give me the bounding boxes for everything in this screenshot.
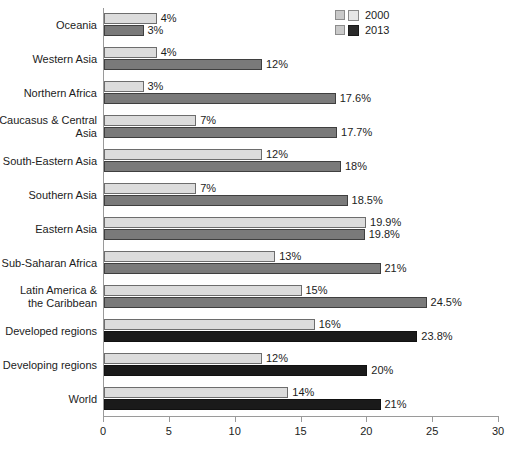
x-tick-mark <box>235 416 236 422</box>
category-label: Northern Africa <box>0 87 97 100</box>
plot-area: 051015202530 Oceania4%3%Western Asia4%12… <box>103 8 498 416</box>
bar-value-label-2000: 4% <box>161 13 177 24</box>
bar-2013 <box>104 127 337 138</box>
bar-2013 <box>104 229 365 240</box>
bar-2000 <box>104 183 196 194</box>
bar-row: Eastern Asia19.9%19.8% <box>103 212 498 246</box>
bar-2000 <box>104 81 144 92</box>
bar-2013 <box>104 161 341 172</box>
bar-2013 <box>104 297 427 308</box>
bar-value-label-2013: 23.8% <box>421 331 452 342</box>
x-tick-mark <box>432 416 433 422</box>
bar-row: Western Asia4%12% <box>103 42 498 76</box>
bar-value-label-2000: 12% <box>266 149 288 160</box>
category-label: World <box>0 393 97 406</box>
category-label: Caucasus & Central Asia <box>0 114 97 139</box>
x-tick-label: 5 <box>166 425 172 437</box>
category-label: Latin America & the Caribbean <box>0 284 97 309</box>
bar-2000 <box>104 47 157 58</box>
x-tick-label: 30 <box>492 425 504 437</box>
category-label: Developed regions <box>0 325 97 338</box>
bar-value-label-2013: 24.5% <box>431 297 462 308</box>
bar-2000 <box>104 319 315 330</box>
bar-value-label-2000: 13% <box>279 251 301 262</box>
bar-value-label-2000: 4% <box>161 47 177 58</box>
category-label: Sub-Saharan Africa <box>0 257 97 270</box>
category-label: Southern Asia <box>0 189 97 202</box>
bar-value-label-2000: 15% <box>306 285 328 296</box>
x-tick-label: 25 <box>426 425 438 437</box>
bar-row: Caucasus & Central Asia7%17.7% <box>103 110 498 144</box>
x-tick-mark <box>498 416 499 422</box>
bar-2013 <box>104 331 417 342</box>
category-label: Oceania <box>0 19 97 32</box>
chart-container: 2000 2013 051015202530 Oceania4%3%Wester… <box>0 0 513 451</box>
bar-2000 <box>104 217 366 228</box>
category-label: South-Eastern Asia <box>0 155 97 168</box>
bar-row: South-Eastern Asia12%18% <box>103 144 498 178</box>
bar-row: Northern Africa3%17.6% <box>103 76 498 110</box>
bar-2000 <box>104 149 262 160</box>
bar-value-label-2000: 7% <box>200 115 216 126</box>
bar-value-label-2000: 12% <box>266 353 288 364</box>
bar-row: Developed regions16%23.8% <box>103 314 498 348</box>
bar-row: Developing regions12%20% <box>103 348 498 382</box>
bar-row: World14%21% <box>103 382 498 416</box>
bar-2013 <box>104 25 144 36</box>
bar-value-label-2013: 19.8% <box>369 229 400 240</box>
x-tick-mark <box>366 416 367 422</box>
category-label: Western Asia <box>0 53 97 66</box>
bar-2000 <box>104 13 157 24</box>
category-label: Developing regions <box>0 359 97 372</box>
x-tick-label: 10 <box>229 425 241 437</box>
x-tick-mark <box>301 416 302 422</box>
bar-value-label-2013: 3% <box>148 25 164 36</box>
bar-2000 <box>104 387 288 398</box>
bar-value-label-2013: 17.7% <box>341 127 372 138</box>
bar-value-label-2013: 21% <box>385 263 407 274</box>
x-tick-label: 20 <box>360 425 372 437</box>
category-label: Eastern Asia <box>0 223 97 236</box>
x-tick-label: 0 <box>100 425 106 437</box>
bar-value-label-2000: 3% <box>148 81 164 92</box>
bar-value-label-2013: 18.5% <box>352 195 383 206</box>
bar-2000 <box>104 285 302 296</box>
bar-2013 <box>104 93 336 104</box>
bar-2000 <box>104 353 262 364</box>
bar-value-label-2000: 7% <box>200 183 216 194</box>
bar-2013 <box>104 59 262 70</box>
bar-value-label-2013: 20% <box>371 365 393 376</box>
bar-value-label-2000: 16% <box>319 319 341 330</box>
bar-row: Oceania4%3% <box>103 8 498 42</box>
bar-2013 <box>104 399 381 410</box>
bar-2013 <box>104 263 381 274</box>
bar-row: Southern Asia7%18.5% <box>103 178 498 212</box>
bar-2000 <box>104 115 196 126</box>
bar-2013 <box>104 365 367 376</box>
bar-value-label-2013: 12% <box>266 59 288 70</box>
bar-2013 <box>104 195 348 206</box>
bar-value-label-2013: 21% <box>385 399 407 410</box>
bar-value-label-2013: 18% <box>345 161 367 172</box>
x-tick-mark <box>169 416 170 422</box>
bar-2000 <box>104 251 275 262</box>
bar-value-label-2013: 17.6% <box>340 93 371 104</box>
x-tick-label: 15 <box>294 425 306 437</box>
bar-value-label-2000: 14% <box>292 387 314 398</box>
bar-value-label-2000: 19.9% <box>370 217 401 228</box>
x-tick-mark <box>103 416 104 422</box>
bar-row: Sub-Saharan Africa13%21% <box>103 246 498 280</box>
bar-row: Latin America & the Caribbean15%24.5% <box>103 280 498 314</box>
